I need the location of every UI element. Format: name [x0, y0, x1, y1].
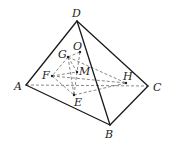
- tetrahedron-diagram: D A C B O G M F H E: [0, 0, 174, 147]
- label-C: C: [153, 81, 162, 94]
- label-H: H: [122, 70, 133, 83]
- label-A: A: [13, 80, 22, 93]
- point-M: [76, 71, 78, 73]
- label-G: G: [58, 48, 67, 61]
- label-M: M: [78, 65, 91, 78]
- point-G: [67, 56, 69, 58]
- segment-GH: [68, 57, 126, 83]
- edge-BC: [110, 86, 148, 125]
- label-E: E: [73, 96, 82, 109]
- point-F: [51, 75, 53, 77]
- segment-FM: [52, 72, 77, 76]
- edge-AB: [26, 85, 110, 125]
- label-D: D: [71, 7, 81, 20]
- label-O: O: [73, 40, 82, 53]
- edge-AC: [26, 85, 148, 86]
- segment-ME: [74, 72, 77, 95]
- label-F: F: [41, 69, 50, 82]
- label-B: B: [104, 128, 113, 141]
